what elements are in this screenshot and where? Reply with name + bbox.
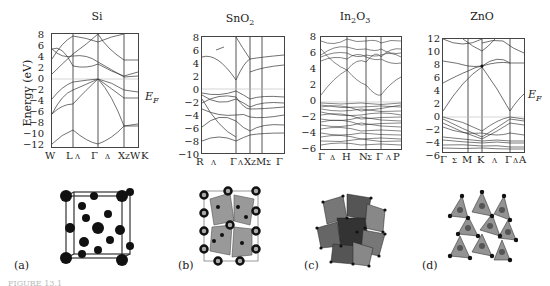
ytick: −4	[294, 128, 316, 138]
structure-sno2	[198, 185, 264, 267]
ytick: −4	[177, 111, 199, 121]
xlabel: Γ	[91, 150, 98, 161]
ytick: 4	[22, 52, 44, 62]
panel-a-title: Si	[52, 10, 142, 23]
band-structure-in2o3	[321, 37, 401, 149]
fermi-sub: F	[536, 94, 542, 103]
ytick: 6	[22, 41, 44, 51]
ytick: −2	[22, 85, 44, 95]
ytick: 2	[177, 72, 199, 82]
ytick: −6	[22, 107, 44, 117]
panel-b-title-sub: 2	[249, 18, 254, 27]
xlabel: Γ	[318, 151, 325, 162]
xlabel: Σ	[367, 154, 372, 162]
ytick: 2	[22, 63, 44, 73]
structure-zno	[438, 190, 518, 266]
xlabel: M	[462, 154, 472, 165]
in2o3-crystal-icon	[313, 188, 393, 268]
ytick: −4	[418, 138, 440, 148]
structure-si	[58, 188, 138, 268]
xlabel: M	[256, 156, 266, 167]
ytick: 0	[22, 74, 44, 84]
ytick: −6	[418, 151, 440, 161]
xlabel: Λ	[492, 157, 497, 165]
ytick: −6	[294, 144, 316, 154]
ytick: 0	[418, 112, 440, 122]
si-crystal-icon	[58, 188, 138, 268]
ytick: 8	[177, 33, 199, 43]
ytick: 4	[418, 86, 440, 96]
xlabel: Γ	[276, 156, 283, 167]
panel-label-b: (b)	[178, 259, 194, 272]
xlabel: K	[477, 154, 484, 165]
ytick: 10	[418, 47, 440, 57]
ytick: 0	[294, 96, 316, 106]
xlabel: K	[141, 150, 148, 161]
ytick: −2	[177, 98, 199, 108]
xlabel: Λ	[238, 159, 243, 167]
panel-a-xlabels: W L Λ Γ Δ X Z W K	[45, 150, 145, 164]
fermi-e: E	[145, 90, 153, 103]
panel-c-xlabels: Γ Δ H N Σ Γ Λ P	[318, 151, 408, 165]
ytick: 6	[177, 46, 199, 56]
panel-d-xlabels: Γ Σ M K Λ Γ Δ A	[440, 154, 540, 168]
xlabel: Λ	[211, 159, 216, 167]
panel-label-a: (a)	[14, 259, 29, 272]
panel-b-xlabels: R Λ Γ Λ X Z M Σ Γ	[196, 156, 296, 170]
fermi-label-d: EF	[528, 88, 542, 103]
xlabel: Λ	[75, 153, 80, 161]
ytick: −4	[22, 96, 44, 106]
xlabel: H	[342, 151, 351, 162]
band-structure-si	[52, 34, 138, 147]
panel-b-title-base: SnO	[226, 12, 250, 25]
ytick: 4	[294, 64, 316, 74]
panel-d-title: ZnO	[447, 10, 517, 23]
xlabel: Σ	[266, 159, 271, 167]
fermi-label-a: EF	[145, 90, 159, 105]
xlabel: P	[393, 151, 400, 162]
ytick: 8	[418, 60, 440, 70]
ytick: 8	[22, 30, 44, 40]
title-o: O	[356, 10, 365, 23]
fermi-e: E	[528, 88, 536, 101]
ytick: 0	[177, 85, 199, 95]
xlabel: Λ	[386, 154, 391, 162]
figure-caption: FIGURE 13.1	[8, 279, 62, 286]
panel-label-c: (c)	[304, 259, 319, 272]
xlabel: A	[519, 154, 526, 165]
sno2-crystal-icon	[198, 185, 264, 267]
ytick: −8	[22, 118, 44, 128]
panel-a-title-text: Si	[91, 10, 102, 23]
zno-crystal-icon	[438, 190, 518, 266]
title-in: In	[340, 10, 351, 23]
panel-b-title: SnO2	[195, 12, 285, 27]
panel-d-plot	[442, 38, 525, 153]
panel-a-plot	[51, 33, 139, 148]
band-structure-sno2	[202, 37, 284, 153]
xlabel: Γ	[376, 151, 383, 162]
xlabel: Δ	[330, 154, 335, 162]
ytick: 2	[294, 80, 316, 90]
ytick: 12	[418, 34, 440, 44]
ytick: 6	[294, 48, 316, 58]
ytick: −2	[294, 112, 316, 122]
ytick: −10	[22, 129, 44, 139]
structure-in2o3	[313, 188, 393, 268]
xlabel: Γ	[230, 156, 237, 167]
panel-b-plot	[201, 36, 285, 154]
ytick: −8	[177, 137, 199, 147]
ytick: 8	[294, 32, 316, 42]
xlabel: R	[196, 156, 204, 167]
panel-label-d: (d)	[422, 259, 438, 272]
panel-c-plot	[320, 36, 402, 150]
band-structure-zno	[443, 39, 524, 152]
fermi-sub: F	[153, 96, 159, 105]
xlabel: Σ	[452, 157, 457, 165]
xlabel: Δ	[105, 153, 110, 161]
xlabel: W	[130, 150, 140, 161]
panel-d-title-text: ZnO	[470, 10, 494, 23]
ytick: 2	[418, 99, 440, 109]
xlabel: Γ	[440, 154, 447, 165]
xlabel: L	[66, 150, 73, 161]
ytick: −6	[177, 124, 199, 134]
